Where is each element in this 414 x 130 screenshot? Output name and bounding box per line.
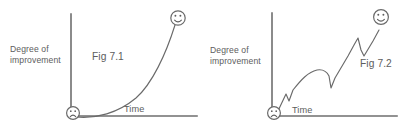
- y-axis-label-line2: improvement: [210, 56, 261, 66]
- figure-7-1-panel: Degree ofimprovement Fig 7.1 Time: [0, 0, 207, 130]
- x-axis-label: Time: [292, 105, 312, 116]
- sawtooth-curve: [277, 30, 379, 113]
- y-axis-label-line1: Degree of: [10, 44, 49, 54]
- x-axis-label: Time: [124, 104, 144, 115]
- figure-7-2-panel: Degree ofimprovement Fig 7.2 Time: [207, 0, 414, 130]
- figure-pair-canvas: Degree ofimprovement Fig 7.1 Time: [0, 0, 414, 130]
- figure-caption: Fig 7.2: [360, 59, 392, 70]
- y-axis-label-line1: Degree of: [210, 45, 249, 55]
- y-axis-label: Degree ofimprovement: [10, 44, 61, 65]
- happy-face-icon: [171, 11, 185, 25]
- sad-face-icon: [268, 107, 281, 120]
- happy-face-icon: [374, 10, 389, 25]
- y-axis-label: Degree ofimprovement: [210, 45, 261, 66]
- sad-face-icon: [67, 107, 80, 120]
- figure-caption: Fig 7.1: [92, 52, 124, 63]
- y-axis-label-line2: improvement: [10, 55, 61, 65]
